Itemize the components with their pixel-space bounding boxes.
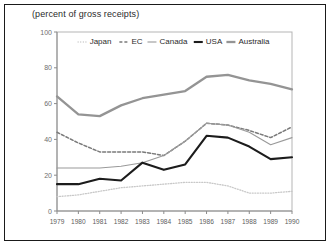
y-tick-label: 20 <box>44 172 52 179</box>
x-tick-label: 1989 <box>263 218 278 225</box>
series-line-australia <box>57 75 292 116</box>
legend-entry-australia: Australia <box>226 37 270 46</box>
y-tick-label: 60 <box>44 100 52 107</box>
plot-frame <box>57 32 292 211</box>
x-tick-label: 1985 <box>178 218 193 225</box>
x-tick-label: 1979 <box>50 218 65 225</box>
y-tick-label: 0 <box>48 208 52 215</box>
legend-label: EC <box>131 37 142 46</box>
x-tick-label: 1983 <box>135 218 150 225</box>
legend-entry-ec: EC <box>119 37 142 46</box>
legend-label: Canada <box>159 37 188 46</box>
line-chart-plot: 020406080100 197919801981198219831984198… <box>0 0 332 247</box>
series-line-canada <box>57 123 292 168</box>
legend-label: Australia <box>238 37 270 46</box>
x-tick-label: 1987 <box>221 218 236 225</box>
legend-label: USA <box>206 37 223 46</box>
legend-entry-usa: USA <box>194 37 223 46</box>
series-line-japan <box>57 182 292 196</box>
x-tick-label: 1980 <box>71 218 86 225</box>
legend-label: Japan <box>90 37 112 46</box>
figure-canvas: (percent of gross receipts) 020406080100… <box>0 0 332 247</box>
legend-entry-canada: Canada <box>147 37 188 46</box>
x-tick-label: 1988 <box>242 218 257 225</box>
x-tick-label: 1982 <box>114 218 129 225</box>
y-tick-label: 80 <box>44 64 52 71</box>
x-tick-label: 1986 <box>199 218 214 225</box>
series-lines <box>57 75 292 197</box>
x-tick-label: 1990 <box>285 218 300 225</box>
y-tick-label: 100 <box>40 29 52 36</box>
x-tick-label: 1981 <box>92 218 107 225</box>
x-tick-label: 1984 <box>156 218 171 225</box>
chart-legend: JapanECCanadaUSAAustralia <box>78 37 270 46</box>
series-line-usa <box>57 136 292 184</box>
x-axis: 1979198019811982198319841985198619871988… <box>50 211 300 225</box>
y-axis: 020406080100 <box>40 29 57 215</box>
y-tick-label: 40 <box>44 136 52 143</box>
legend-entry-japan: Japan <box>78 37 112 46</box>
